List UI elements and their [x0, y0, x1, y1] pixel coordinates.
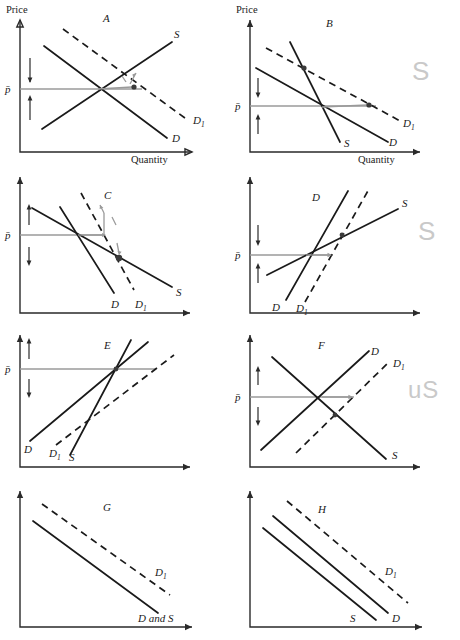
- panel-E-demand-label: D: [23, 443, 32, 455]
- panel-A-y-axis-title: Price: [6, 4, 28, 15]
- panel-A-demand-shift-label: D1: [192, 114, 205, 129]
- price-down-arrow-head: [256, 420, 261, 426]
- panel-C-demand-shift-label: D1: [134, 298, 147, 313]
- panel-A-demand-label: D: [171, 132, 180, 144]
- panel-B-supply-label: S: [344, 137, 350, 149]
- panel-D-axes: [250, 177, 420, 313]
- panel-H-demand-label: D: [391, 612, 400, 624]
- price-down-arrow-head: [28, 77, 33, 83]
- panel-C-demand-label: D: [110, 298, 119, 310]
- y-axis-arrowhead: [17, 177, 23, 184]
- panel-H: H D1 D S: [230, 483, 460, 640]
- panel-E-axes: [20, 335, 190, 467]
- price-up-arrow-head: [256, 366, 261, 372]
- gray-down-arrow-head: [117, 251, 121, 255]
- y-axis-arrowhead: [247, 335, 253, 342]
- panel-E-letter: E: [103, 339, 111, 351]
- panel-D-demand-label-bottom: D: [271, 301, 280, 313]
- x-axis-arrowhead: [413, 310, 420, 316]
- panel-F-letter: F: [317, 339, 325, 351]
- demand-shift-curve: [81, 193, 134, 290]
- price-down-arrow-head: [256, 240, 261, 246]
- panel-G-both-curves-label: D and S: [137, 612, 174, 624]
- price-down-arrow-head-bottom: [27, 260, 32, 266]
- x-axis-arrowhead: [415, 624, 422, 630]
- demand-curve: [273, 516, 388, 613]
- x-axis-arrowhead: [183, 464, 190, 470]
- gray-diagonal-tick: [112, 217, 116, 225]
- panel-F-supply-label: S: [392, 449, 398, 461]
- panel-D-price-label: p̄: [234, 249, 241, 261]
- panel-E: p̄ E D D1 S: [0, 325, 230, 483]
- x-axis-arrowhead: [183, 310, 190, 316]
- panel-F-demand-shift-label: D1: [392, 357, 405, 372]
- handwritten-note-row1: S: [412, 56, 430, 87]
- price-down-arrow-head: [256, 92, 261, 98]
- panel-H-axes: [250, 491, 422, 627]
- price-down-arrow-head: [27, 392, 32, 398]
- panel-H-letter: H: [317, 503, 327, 515]
- panel-A-x-axis-title: Quantity: [131, 154, 168, 165]
- panel-H-demand-shift-label: D1: [384, 565, 397, 580]
- supply-curve: [70, 340, 131, 455]
- panel-H-supply-label: S: [350, 612, 356, 624]
- panel-G: G D1 D and S: [0, 483, 230, 640]
- panel-F-axes: [250, 335, 420, 467]
- demand-shift-curve: [305, 189, 369, 302]
- y-axis-arrowhead: [17, 491, 23, 498]
- panel-F: p̄ F D D1 S: [230, 325, 460, 483]
- panel-A-price-label: p̄: [4, 83, 11, 95]
- panel-G-demand-shift-label: D1: [154, 566, 167, 581]
- gray-up-arrow-head: [100, 205, 104, 209]
- panel-B-y-axis-title: Price: [236, 4, 258, 15]
- gray-tick-mark: [122, 76, 126, 82]
- price-up-arrow-head: [256, 114, 261, 120]
- equilibrium-dot: [114, 367, 119, 372]
- price-up-arrow-head: [28, 95, 33, 101]
- panel-B-x-axis-title: Quantity: [358, 154, 395, 165]
- handwritten-note-row2: S: [418, 216, 436, 247]
- panel-A-supply-label: S: [174, 28, 180, 40]
- panel-E-demand-shift-label: D1: [48, 447, 61, 462]
- intersection-dot: [301, 65, 306, 70]
- y-axis-arrowhead: [17, 335, 23, 342]
- x-axis-arrowhead: [413, 464, 420, 470]
- panel-B-demand-shift-label: D1: [402, 117, 415, 132]
- panel-F-demand-label: D: [370, 345, 379, 357]
- x-axis-arrowhead: [413, 149, 420, 155]
- panel-D-demand-shift-label: D1: [295, 302, 308, 317]
- panel-A: Price Quantity p̄ A S D D1: [0, 0, 230, 165]
- intersection-dot: [333, 413, 338, 418]
- panel-B-demand-label: D: [388, 136, 397, 148]
- panel-D-demand-label-top: D: [311, 191, 320, 203]
- price-up-arrow-head: [256, 263, 261, 269]
- panel-E-price-label: p̄: [4, 363, 11, 375]
- figure-grid: Price Quantity p̄ A S D D1: [0, 0, 460, 640]
- panel-G-letter: G: [103, 501, 111, 513]
- new-equilibrium-dot: [366, 102, 371, 107]
- handwritten-note-row3: uS: [408, 376, 439, 404]
- panel-B-letter: B: [326, 17, 333, 29]
- y-axis-arrowhead: [247, 491, 253, 498]
- demand-shift-curve: [287, 501, 408, 603]
- price-up-arrow-head-top: [27, 204, 32, 210]
- panel-C: p̄ C D D1 S: [0, 165, 230, 325]
- price-up-arrow-head: [27, 338, 32, 344]
- supply-curve: [42, 42, 172, 129]
- panel-D-supply-label: S: [402, 197, 408, 209]
- supply-curve: [263, 528, 376, 620]
- demand-and-supply-curve: [33, 521, 158, 613]
- new-equilibrium-dot: [340, 233, 345, 238]
- panel-C-letter: C: [104, 189, 112, 201]
- demand-curve: [286, 191, 348, 300]
- panel-E-supply-label: S: [69, 451, 75, 463]
- panel-F-price-label: p̄: [234, 391, 241, 403]
- y-axis-arrowhead: [247, 20, 253, 27]
- demand-shift-curve: [42, 504, 170, 595]
- supply-curve: [272, 357, 386, 459]
- panel-C-supply-label: S: [176, 286, 182, 298]
- y-axis-arrowhead: [247, 177, 253, 184]
- panel-A-letter: A: [102, 12, 110, 24]
- panel-C-price-label: p̄: [4, 229, 11, 241]
- panel-B-price-label: p̄: [234, 100, 241, 112]
